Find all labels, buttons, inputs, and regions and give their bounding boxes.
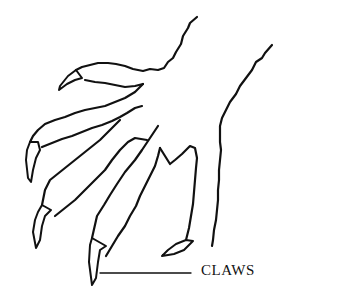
- bird-foot-diagram: CLAWS: [0, 0, 357, 300]
- claw-1: [59, 70, 82, 90]
- toe-4-lower: [106, 148, 160, 256]
- toe-1-underside: [85, 80, 143, 87]
- leg-outline-left: [76, 17, 197, 71]
- toe-2-lower: [42, 106, 142, 147]
- bird-foot-drawing: [0, 0, 357, 300]
- back-toe-outer: [160, 146, 197, 240]
- claw-3: [33, 205, 51, 248]
- claw-back: [162, 240, 193, 256]
- claw-4: [89, 238, 106, 285]
- toe-3-lower: [55, 138, 147, 216]
- leg-outline-right: [212, 45, 272, 246]
- claws-label: CLAWS: [201, 262, 255, 279]
- claw-2: [26, 142, 40, 182]
